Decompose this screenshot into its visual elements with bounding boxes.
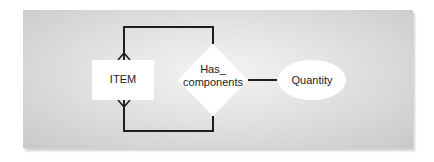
connector-top-loop — [124, 27, 213, 60]
entity-item-label: ITEM — [92, 73, 154, 86]
attribute-quantity-label: Quantity — [278, 74, 346, 87]
relationship-label-line2: components — [178, 76, 248, 89]
connector-bottom-loop — [124, 100, 213, 131]
relationship-label-line1: Has_ — [178, 63, 248, 76]
